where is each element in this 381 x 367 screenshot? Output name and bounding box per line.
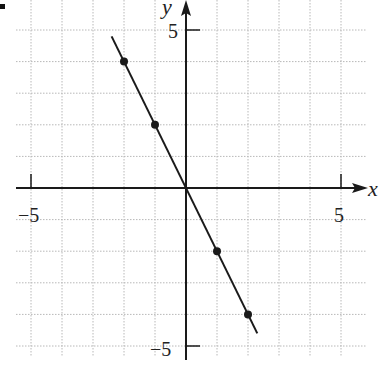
problem-bullet — [0, 4, 5, 9]
data-point — [151, 121, 159, 129]
data-series — [112, 36, 258, 333]
data-point — [120, 58, 128, 66]
x-tick-label-neg5: −5 — [18, 204, 39, 226]
y-tick-label-5: 5 — [168, 20, 178, 42]
x-axis-label: x — [367, 176, 378, 201]
x-tick-label-5: 5 — [334, 204, 344, 226]
coordinate-plane: x y −5 5 5 −5 — [0, 0, 381, 367]
y-tick-label-neg5: −5 — [150, 338, 171, 360]
axes — [16, 0, 368, 360]
data-point — [213, 247, 221, 255]
data-point — [244, 310, 252, 318]
data-line — [112, 36, 258, 333]
y-axis-label: y — [160, 0, 172, 19]
grid — [16, 0, 366, 356]
